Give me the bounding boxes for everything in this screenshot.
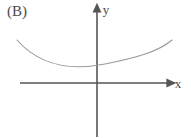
y-axis-label: y [103, 2, 110, 17]
coordinate-plot: x y [0, 0, 191, 138]
parabola-curve [17, 40, 172, 67]
figure-panel: (B) x y [0, 0, 191, 138]
x-axis-label: x [175, 76, 182, 91]
